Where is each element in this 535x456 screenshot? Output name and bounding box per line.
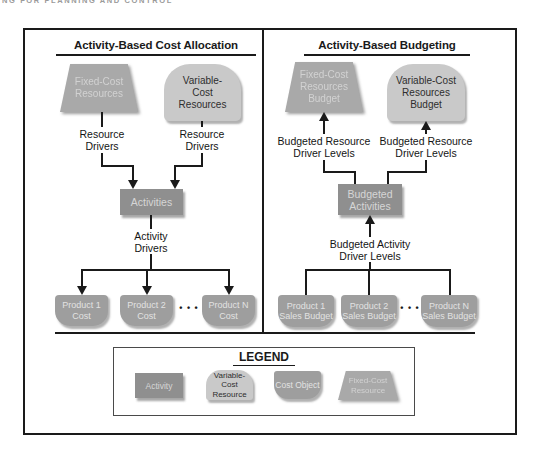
connector-line [369,223,371,237]
right-panel-title: Activity-Based Budgeting [304,39,470,56]
fixed-cost-resources-budget-shape: Fixed-Cost Resources Budget [285,62,363,112]
resource-drivers-left-label: Resource Drivers [68,128,136,152]
connector-line [150,215,152,229]
ellipsis: • • • [176,303,202,313]
left-panel-title: Activity-Based Cost Allocation [56,39,256,56]
connector-line [101,112,103,127]
connector-line [387,171,389,184]
legend-cost-object-shape: Cost Object [274,371,321,399]
budgeted-resource-driver-levels-left-label: Budgeted Resource Driver Levels [277,135,371,159]
connector-line [368,269,370,295]
panels-bottom-line [55,332,475,334]
variable-cost-resources-shape: Variable- Cost Resources [164,64,241,121]
running-header: NG FOR PLANNING AND CONTROL [2,0,173,5]
arrow-down-icon [224,286,234,295]
connector-line [425,129,427,134]
fixed-cost-resources-label: Fixed-Cost Resources [60,64,138,112]
legend-title: LEGEND [233,350,295,366]
activities-box: Activities [120,189,183,215]
product-2-cost-shape: Product 2 Cost [120,295,173,326]
variable-cost-resources-budget-shape: Variable-Cost Resources Budget [387,64,465,121]
textbook-figure-page: NG FOR PLANNING AND CONTROL Activity-Bas… [0,0,535,456]
product-2-sales-budget-shape: Product 2 Sales Budget [341,295,397,327]
connector-line [323,120,325,134]
arrow-down-icon [128,180,138,189]
budgeted-activities-box: Budgeted Activities [338,184,402,215]
fixed-cost-resources-shape: Fixed-Cost Resources [60,64,138,112]
ellipsis: • • • [398,303,422,313]
connector-line [305,269,307,295]
product-n-sales-budget-shape: Product N Sales Budget [421,295,477,327]
product-n-cost-shape: Product N Cost [202,295,255,326]
connector-line [81,269,83,287]
arrow-down-icon [142,286,152,295]
connector-line [323,171,356,173]
product-1-cost-shape: Product 1 Cost [55,295,108,326]
connector-line [228,269,230,287]
fixed-cost-resources-budget-label: Fixed-Cost Resources Budget [285,62,363,112]
legend-fixed-cost-resource-shape: Fixed-Cost Resource [338,371,398,400]
connector-line [201,121,203,127]
resource-drivers-right-label: Resource Drivers [168,128,236,152]
connector-line [132,165,134,181]
budgeted-activity-driver-levels-label: Budgeted Activity Driver Levels [320,238,420,262]
connector-line [354,171,356,184]
panel-divider-line [262,30,264,332]
product-1-sales-budget-shape: Product 1 Sales Budget [278,295,334,327]
legend-variable-cost-resource-shape: Variable-Cost Resource [206,370,253,400]
budgeted-resource-driver-levels-right-label: Budgeted Resource Driver Levels [379,135,473,159]
arrow-down-icon [170,180,180,189]
legend-fixed-cost-resource-label: Fixed-Cost Resource [338,371,398,400]
legend-activity-shape: Activity [135,373,183,398]
connector-line [387,171,427,173]
connector-line [174,165,176,181]
arrow-down-icon [77,286,87,295]
activity-drivers-label: Activity Drivers [116,230,186,254]
connector-line [305,269,451,271]
connector-line [101,165,134,167]
connector-line [449,269,451,295]
connector-line [81,269,230,271]
connector-line [174,165,203,167]
connector-line [146,269,148,287]
